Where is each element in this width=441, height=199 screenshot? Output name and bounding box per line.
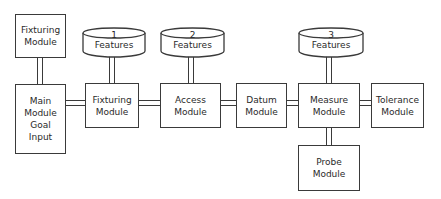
probe-module-label: Probe Module	[313, 156, 346, 180]
probe-module: Probe Module	[298, 145, 360, 191]
features-database-2: 2 Features	[160, 27, 225, 59]
connector-measure-probe	[326, 128, 332, 145]
connector-db1-fixturing	[109, 56, 115, 83]
connector-datum-measure	[287, 100, 298, 106]
connector-main-fixturing	[66, 100, 85, 106]
fixturing-module: Fixturing Module	[85, 83, 139, 128]
fixturing-module-label: Fixturing Module	[92, 94, 131, 118]
access-module-label: Access Module	[174, 94, 207, 118]
connector-fixturing-access	[139, 100, 160, 106]
fixturing-module-top: Fixturing Module	[15, 14, 66, 58]
fixturing-module-top-label: Fixturing Module	[21, 24, 60, 48]
database-label: Features	[298, 40, 364, 51]
datum-module: Datum Module	[236, 83, 287, 128]
tolerance-module-label: Tolerance Module	[376, 94, 419, 118]
database-label: Features	[82, 40, 146, 51]
main-module: Main Module Goal Input	[15, 84, 66, 154]
tolerance-module: Tolerance Module	[371, 83, 424, 128]
measure-module-label: Measure Module	[310, 94, 348, 118]
features-database-3: 3 Features	[298, 27, 364, 59]
connector-db2-access	[188, 56, 194, 83]
features-database-1: 1 Features	[82, 27, 146, 59]
access-module: Access Module	[160, 83, 221, 128]
connector-fixturing-top-main	[37, 58, 43, 84]
database-label: Features	[160, 40, 225, 51]
main-module-label: Main Module Goal Input	[24, 95, 57, 143]
datum-module-label: Datum Module	[245, 94, 278, 118]
connector-measure-tolerance	[360, 100, 371, 106]
measure-module: Measure Module	[298, 83, 360, 128]
connector-db3-measure	[326, 56, 332, 83]
connector-access-datum	[221, 100, 236, 106]
